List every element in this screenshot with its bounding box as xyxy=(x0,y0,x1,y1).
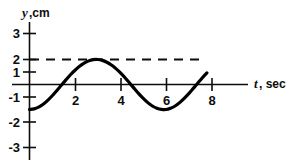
x-tick-label-8: 8 xyxy=(208,93,215,108)
axis-titles: y ,cm t , sec xyxy=(20,5,286,91)
y-tick-label-neg1: -1 xyxy=(8,90,20,105)
y-tick-label-neg2: -2 xyxy=(8,115,20,130)
sinusoid-plot: 3 2 1 -1 -2 -3 2 4 6 8 y ,cm t , sec xyxy=(0,0,290,164)
y-axis-label-unit: ,cm xyxy=(29,6,50,20)
graph-figure: 3 2 1 -1 -2 -3 2 4 6 8 y ,cm t , sec xyxy=(0,0,290,164)
y-tick-label-3: 3 xyxy=(13,26,20,41)
y-tick-labels: 3 2 1 -1 -2 -3 xyxy=(8,26,20,155)
x-tick-label-2: 2 xyxy=(72,93,79,108)
x-tick-label-6: 6 xyxy=(163,93,170,108)
y-tick-label-neg3: -3 xyxy=(8,140,20,155)
y-tick-label-1: 1 xyxy=(13,65,20,80)
x-axis-label-unit: , sec xyxy=(259,77,286,91)
y-axis-label-symbol: y xyxy=(20,5,28,20)
x-tick-label-4: 4 xyxy=(117,93,125,108)
x-axis-label-symbol: t xyxy=(254,76,258,91)
